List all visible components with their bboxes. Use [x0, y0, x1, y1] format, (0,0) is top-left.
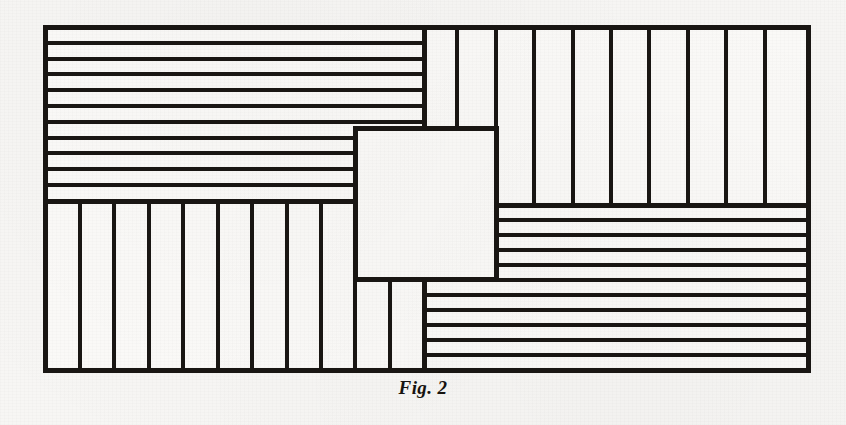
- pinwheel-tiling-figure: [0, 0, 846, 425]
- center-square: [355, 128, 496, 279]
- center-square-fill: [355, 128, 496, 279]
- figure-caption: Fig. 2: [0, 377, 846, 399]
- figure-stage: Fig. 2: [0, 0, 846, 425]
